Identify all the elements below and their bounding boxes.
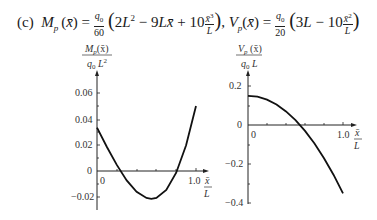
tick-label: −0.4 (225, 197, 243, 208)
svg-text:Vp (x̄): Vp (x̄) (238, 43, 262, 56)
shear-y-label: Vp (x̄) q0 L (236, 43, 262, 71)
svg-text:q0 L2: q0 L2 (87, 57, 108, 71)
moment-y-label: Mp(x̄) q0 L2 (82, 43, 112, 71)
arrow-right-icon (203, 169, 209, 173)
svg-text:x̄: x̄ (354, 127, 360, 138)
svg-text:Mp(x̄): Mp(x̄) (84, 43, 109, 56)
tick-label: −0.02 (71, 191, 94, 202)
svg-text:x̄: x̄ (204, 175, 210, 186)
shear-curve (248, 96, 343, 194)
shear-chart: Vp (x̄) q0 L 0.2 0 −0.2 −0.4 0 1.0 x̄ L (225, 43, 362, 208)
svg-text:L: L (203, 188, 210, 199)
tick-label: 0.2 (229, 80, 242, 91)
moment-curve (97, 106, 196, 199)
moment-x-label: x̄ L (203, 175, 212, 199)
tick-label: 1.0 (337, 129, 350, 140)
svg-text:L: L (353, 140, 360, 151)
arrow-up-icon (95, 70, 99, 76)
tick-label: 0.04 (75, 114, 93, 125)
tick-label: 0 (237, 119, 242, 130)
charts-canvas: Mp(x̄) q0 L2 0.06 0.04 0.02 0 −0.02 0 1.… (0, 0, 377, 220)
moment-chart: Mp(x̄) q0 L2 0.06 0.04 0.02 0 −0.02 0 1.… (71, 43, 212, 210)
tick-label: 1.0 (188, 175, 201, 186)
tick-label: 0.02 (75, 139, 93, 150)
tick-label: 0.06 (75, 87, 93, 98)
tick-label: 0 (100, 175, 105, 186)
svg-text:q0 L: q0 L (241, 58, 258, 71)
shear-x-label: x̄ L (353, 127, 362, 151)
tick-label: 0 (87, 165, 92, 176)
tick-label: 0 (251, 129, 256, 140)
tick-label: −0.2 (225, 158, 243, 169)
